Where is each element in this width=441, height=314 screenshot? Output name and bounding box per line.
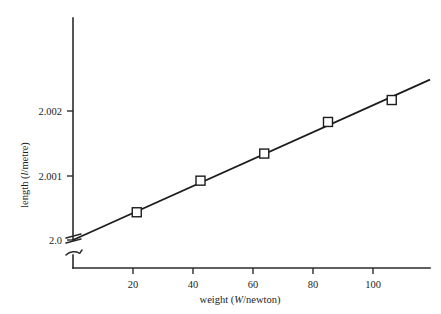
y-axis-title-suffix: /metre)	[19, 142, 31, 173]
x-tick-label-1: 40	[188, 279, 199, 290]
data-point-markers	[132, 96, 396, 217]
line-chart: 2.0 2.001 2.002 20 40 60 80 100 weight (…	[0, 0, 441, 314]
y-axis-ticks	[67, 111, 73, 240]
data-point-marker	[387, 96, 396, 105]
x-tick-label-0: 20	[128, 279, 139, 290]
y-tick-label-0: 2.0	[49, 235, 62, 246]
data-point-marker	[324, 117, 333, 126]
y-tick-label-1: 2.001	[38, 171, 62, 182]
data-point-marker	[196, 176, 205, 185]
data-point-marker	[132, 208, 141, 217]
x-axis-title-suffix: /newton)	[243, 294, 281, 306]
best-fit-line	[73, 80, 430, 240]
y-tick-label-2: 2.002	[38, 106, 62, 117]
x-tick-label-3: 80	[308, 279, 319, 290]
chart-container: 2.0 2.001 2.002 20 40 60 80 100 weight (…	[0, 0, 441, 314]
y-axis-title-prefix: length (	[19, 175, 31, 208]
x-tick-label-2: 60	[248, 279, 259, 290]
x-axis-ticks	[133, 268, 373, 274]
x-axis-title-prefix: weight (	[200, 294, 235, 306]
y-axis-title: length (l/metre)	[19, 142, 31, 208]
x-tick-label-4: 100	[365, 279, 381, 290]
data-point-marker	[260, 149, 269, 158]
x-axis-title: weight (W/newton)	[200, 294, 281, 306]
